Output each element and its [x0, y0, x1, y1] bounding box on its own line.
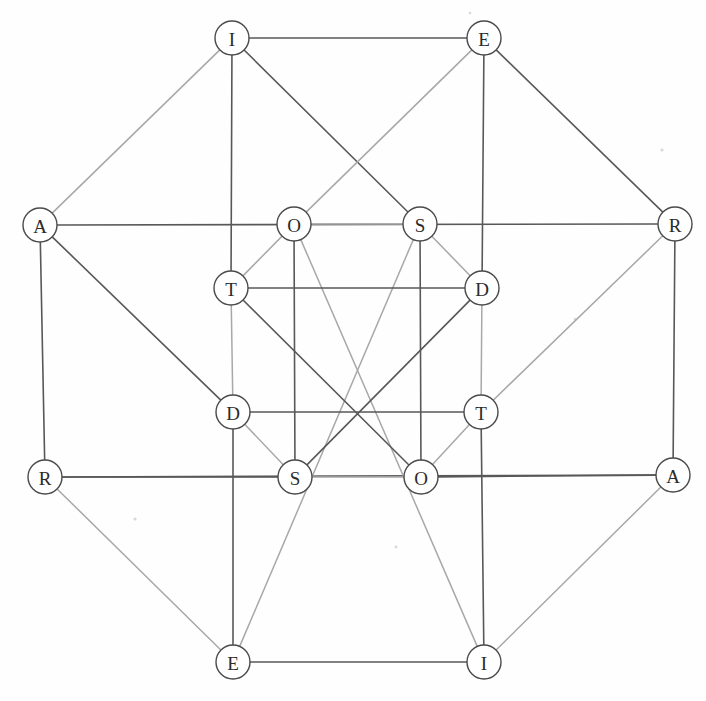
graph-edge — [245, 424, 284, 464]
graph-node[interactable]: E — [467, 21, 501, 55]
node-label: O — [414, 468, 428, 489]
graph-node[interactable]: I — [215, 21, 249, 55]
graph-edge — [306, 50, 472, 212]
graph-edge — [243, 236, 282, 276]
graph-edge — [231, 55, 232, 271]
node-label: D — [475, 279, 489, 300]
graph-edge — [244, 50, 408, 212]
graph-node[interactable]: A — [656, 458, 690, 492]
node-label: I — [481, 653, 487, 674]
graph-edge — [432, 236, 470, 276]
paper-speck — [469, 12, 472, 15]
graph-edge — [481, 305, 482, 395]
graph-edge — [433, 424, 470, 464]
graph-node[interactable]: R — [28, 460, 62, 494]
graph-edge — [496, 50, 663, 212]
graph-edge — [496, 487, 661, 650]
edge-layer — [40, 38, 675, 662]
node-label: T — [225, 279, 237, 300]
node-label: S — [415, 215, 426, 236]
graph-node[interactable]: S — [278, 460, 312, 494]
graph-edge — [481, 429, 484, 645]
node-label: T — [475, 403, 487, 424]
graph-node[interactable]: O — [277, 207, 311, 241]
node-label: D — [226, 403, 240, 424]
graph-edge — [52, 237, 221, 400]
graph-node[interactable]: S — [403, 207, 437, 241]
graph-node[interactable]: R — [658, 207, 692, 241]
node-label: A — [33, 216, 47, 237]
node-label: R — [669, 215, 682, 236]
node-label: R — [39, 468, 52, 489]
graph-node[interactable]: T — [214, 271, 248, 305]
graph-edge — [52, 50, 220, 213]
graph-node[interactable]: D — [465, 271, 499, 305]
node-layer: IEARRAEIOSTDDTSO — [23, 21, 692, 679]
graph-node[interactable]: T — [464, 395, 498, 429]
graph-node[interactable]: A — [23, 208, 57, 242]
node-label: S — [290, 468, 301, 489]
node-label: I — [229, 29, 235, 50]
paper-speck — [395, 546, 398, 549]
paper-speck-layer — [133, 12, 663, 549]
graph-edge — [493, 236, 663, 400]
node-label: O — [287, 215, 301, 236]
graph-canvas: IEARRAEIOSTDDTSO — [0, 0, 706, 701]
hypercube-graph-figure: IEARRAEIOSTDDTSO — [0, 0, 706, 701]
graph-node[interactable]: E — [216, 645, 250, 679]
node-label: E — [227, 653, 239, 674]
paper-speck — [660, 148, 663, 151]
node-label: E — [478, 29, 490, 50]
graph-edge — [243, 300, 409, 465]
graph-edge — [673, 241, 675, 458]
graph-edge — [57, 489, 221, 650]
graph-node[interactable]: D — [216, 395, 250, 429]
graph-edge — [231, 305, 232, 395]
graph-node[interactable]: I — [467, 645, 501, 679]
graph-edge — [482, 55, 484, 271]
graph-node[interactable]: O — [404, 460, 438, 494]
graph-edge — [40, 242, 44, 460]
paper-speck — [133, 517, 136, 520]
node-label: A — [666, 466, 680, 487]
